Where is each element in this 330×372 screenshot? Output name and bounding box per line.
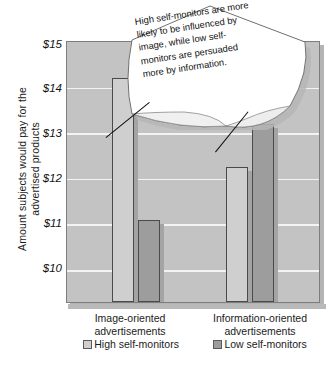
legend-label-low: Low self-monitors xyxy=(224,338,306,350)
x-tick-label-image-oriented: Image-oriented advertisements xyxy=(70,312,190,337)
y-tick-label: $11 xyxy=(16,217,62,229)
chart-legend: High self-monitors Low self-monitors xyxy=(66,338,324,350)
gridline xyxy=(67,88,319,90)
legend-item-low-self-monitors: Low self-monitors xyxy=(213,338,306,350)
x-tick-line-1: Information-oriented xyxy=(196,312,324,325)
y-tick-label: $13 xyxy=(16,127,62,139)
bar-low-group-1 xyxy=(138,220,160,302)
y-tick-label: $12 xyxy=(16,172,62,184)
x-tick-line-2: advertisements xyxy=(196,325,324,338)
gridline xyxy=(67,270,319,272)
bar-high-group-2 xyxy=(226,167,248,302)
bar-low-group-2 xyxy=(252,124,274,302)
legend-swatch-icon-low xyxy=(213,340,222,349)
legend-label-high: High self-monitors xyxy=(94,338,179,350)
note-line-1: High self-monitors are more xyxy=(134,0,302,29)
y-axis-title: Amount subjects would pay for the advert… xyxy=(0,38,56,300)
x-tick-line-1: Image-oriented xyxy=(70,312,190,325)
bar-high-group-1 xyxy=(112,78,134,302)
x-axis-baseline xyxy=(68,304,326,309)
gridline xyxy=(67,179,319,181)
gridline xyxy=(67,224,319,226)
legend-swatch-icon-high xyxy=(83,340,92,349)
note-line-2: likely to be influenced by xyxy=(136,4,304,42)
legend-item-high-self-monitors: High self-monitors xyxy=(83,338,179,350)
y-tick-label: $10 xyxy=(16,262,62,274)
y-tick-label: $14 xyxy=(16,82,62,94)
x-tick-line-2: advertisements xyxy=(70,325,190,338)
gridline xyxy=(67,133,319,135)
y-tick-label: $15 xyxy=(16,38,62,50)
x-tick-label-information-oriented: Information-oriented advertisements xyxy=(196,312,324,337)
plot-area xyxy=(66,41,320,303)
bar-chart-figure: Amount subjects would pay for the advert… xyxy=(0,0,330,372)
